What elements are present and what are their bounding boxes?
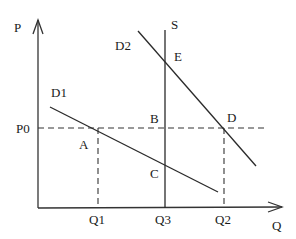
supply-demand-diagram: P Q P0 Q1 Q3 Q2 D1 D2 S A B C D E [0, 0, 296, 239]
d2-label: D2 [115, 38, 131, 53]
point-c-label: C [150, 166, 159, 181]
q3-label: Q3 [155, 212, 171, 227]
x-axis-label: Q [272, 218, 282, 233]
p0-label: P0 [16, 121, 30, 136]
d1-label: D1 [51, 85, 67, 100]
point-b-label: B [150, 111, 159, 126]
point-e-label: E [174, 49, 182, 64]
d2-demand-curve [138, 31, 256, 166]
y-axis-label: P [14, 20, 21, 35]
d1-demand-curve [50, 107, 218, 192]
point-a-label: A [79, 137, 89, 152]
q1-label: Q1 [89, 212, 105, 227]
x-axis [38, 202, 282, 212]
s-label: S [171, 17, 178, 32]
y-axis [33, 20, 43, 208]
q2-label: Q2 [215, 212, 231, 227]
point-d-label: D [227, 110, 236, 125]
